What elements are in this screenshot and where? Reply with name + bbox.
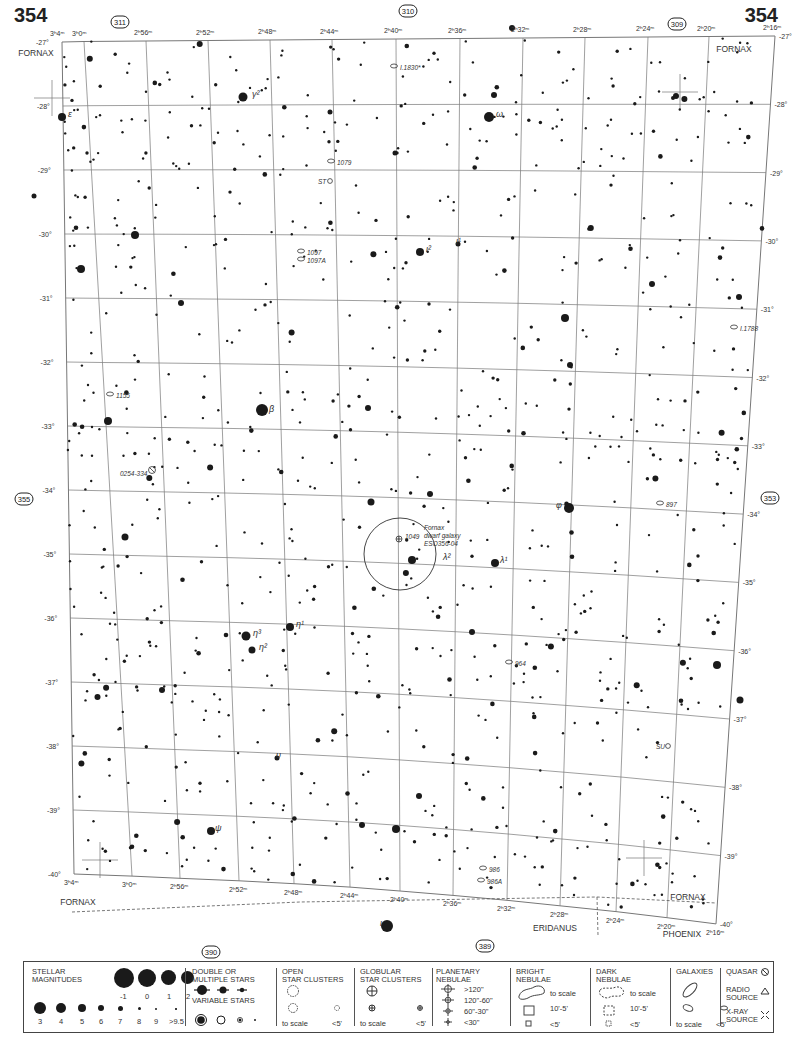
star[interactable] bbox=[368, 499, 375, 506]
star bbox=[355, 459, 357, 461]
dec-label-left: -39° bbox=[47, 807, 60, 814]
star[interactable] bbox=[416, 248, 424, 256]
object-label: η² bbox=[259, 642, 268, 652]
star bbox=[606, 687, 609, 690]
star bbox=[290, 626, 292, 628]
star[interactable] bbox=[207, 827, 215, 835]
star[interactable] bbox=[416, 793, 422, 799]
star bbox=[589, 432, 591, 434]
adjacent-chart-ref[interactable]: 390 bbox=[202, 946, 220, 958]
star bbox=[677, 252, 679, 254]
star bbox=[91, 426, 93, 428]
star bbox=[586, 846, 588, 848]
variable-object[interactable] bbox=[666, 744, 671, 749]
star bbox=[224, 633, 229, 638]
star bbox=[139, 655, 141, 657]
star bbox=[175, 765, 178, 768]
quasar-object[interactable] bbox=[149, 467, 156, 474]
star[interactable] bbox=[32, 194, 37, 199]
globular-object[interactable] bbox=[396, 536, 402, 542]
star[interactable] bbox=[671, 96, 675, 100]
star bbox=[545, 644, 547, 646]
star[interactable] bbox=[359, 822, 365, 828]
object-label: λ¹ bbox=[499, 555, 507, 565]
star bbox=[391, 410, 393, 412]
star[interactable] bbox=[649, 281, 655, 287]
star bbox=[67, 149, 69, 151]
star[interactable] bbox=[408, 556, 416, 564]
fornax-dwarf-galaxy-outline[interactable] bbox=[364, 518, 436, 590]
object-label: SU bbox=[656, 743, 665, 750]
star bbox=[135, 685, 138, 688]
star bbox=[346, 566, 348, 568]
ra-gridline bbox=[507, 38, 523, 900]
star[interactable] bbox=[131, 231, 139, 239]
dec-gridline bbox=[72, 746, 725, 787]
star[interactable] bbox=[58, 113, 66, 121]
star[interactable] bbox=[159, 687, 165, 693]
star[interactable] bbox=[256, 404, 268, 416]
star[interactable] bbox=[713, 661, 721, 669]
star[interactable] bbox=[242, 632, 251, 641]
adjacent-chart-ref[interactable]: 311 bbox=[111, 16, 129, 28]
star bbox=[585, 335, 587, 337]
star bbox=[585, 127, 587, 129]
star bbox=[217, 132, 219, 134]
galaxy-object[interactable] bbox=[731, 325, 738, 329]
star[interactable] bbox=[427, 491, 433, 497]
star[interactable] bbox=[736, 294, 742, 300]
adjacent-chart-ref[interactable]: 389 bbox=[476, 940, 494, 952]
star bbox=[718, 454, 720, 456]
star bbox=[292, 816, 297, 821]
star[interactable] bbox=[737, 697, 744, 704]
star bbox=[725, 114, 727, 116]
adjacent-chart-ref[interactable]: 310 bbox=[399, 5, 417, 17]
star[interactable] bbox=[392, 825, 400, 833]
adjacent-chart-ref[interactable]: 353 bbox=[761, 492, 779, 504]
star bbox=[428, 881, 430, 883]
dec-label-left: -29° bbox=[38, 167, 51, 174]
star bbox=[689, 658, 691, 660]
galaxy-object[interactable] bbox=[107, 392, 114, 396]
star[interactable] bbox=[178, 300, 184, 306]
star[interactable] bbox=[484, 112, 494, 122]
star[interactable] bbox=[249, 647, 256, 654]
galaxy-object[interactable] bbox=[657, 501, 664, 505]
star[interactable] bbox=[365, 405, 371, 411]
star bbox=[665, 862, 667, 864]
star[interactable] bbox=[286, 623, 294, 631]
star[interactable] bbox=[239, 93, 248, 102]
star[interactable] bbox=[381, 920, 393, 932]
variable-object[interactable] bbox=[328, 179, 333, 184]
galaxy-object[interactable] bbox=[298, 249, 305, 253]
star bbox=[133, 452, 136, 455]
star[interactable] bbox=[561, 314, 569, 322]
dec-label-right: -37° bbox=[734, 716, 747, 723]
star[interactable] bbox=[104, 417, 112, 425]
star bbox=[198, 333, 200, 335]
galaxy-object[interactable] bbox=[298, 257, 305, 261]
star bbox=[607, 904, 609, 906]
star bbox=[258, 450, 260, 452]
star-chart-map[interactable]: 3ʰ4ᵐ3ʰ0ᵐ2ʰ56ᵐ2ʰ52ᵐ2ʰ48ᵐ2ʰ44ᵐ2ʰ40ᵐ2ʰ36ᵐ2ʰ… bbox=[0, 0, 792, 960]
star bbox=[398, 706, 400, 708]
star bbox=[187, 482, 189, 484]
galaxy-object[interactable] bbox=[328, 159, 335, 163]
adjacent-chart-ref[interactable]: 309 bbox=[668, 18, 686, 30]
star[interactable] bbox=[122, 534, 129, 541]
star[interactable] bbox=[491, 92, 497, 98]
galaxy-object[interactable] bbox=[480, 866, 487, 870]
star[interactable] bbox=[491, 559, 499, 567]
star bbox=[215, 243, 217, 245]
adjacent-chart-ref[interactable]: 355 bbox=[15, 493, 33, 505]
star[interactable] bbox=[469, 629, 475, 635]
star[interactable] bbox=[77, 265, 85, 273]
dec-gridline bbox=[71, 682, 729, 719]
star bbox=[675, 837, 678, 840]
star bbox=[281, 50, 283, 52]
star bbox=[570, 555, 575, 560]
galaxy-object[interactable] bbox=[478, 878, 485, 882]
star bbox=[355, 819, 357, 821]
star bbox=[590, 590, 592, 592]
star bbox=[416, 558, 418, 560]
